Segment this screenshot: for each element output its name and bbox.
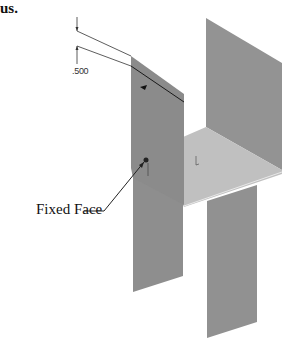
sheetmetal-model xyxy=(0,0,287,339)
dimension-value: .500 xyxy=(72,66,88,76)
fixed-face-label: Fixed Face xyxy=(36,201,102,218)
fixed-face-marker-icon xyxy=(144,158,149,163)
right-lower-leg xyxy=(207,185,257,338)
